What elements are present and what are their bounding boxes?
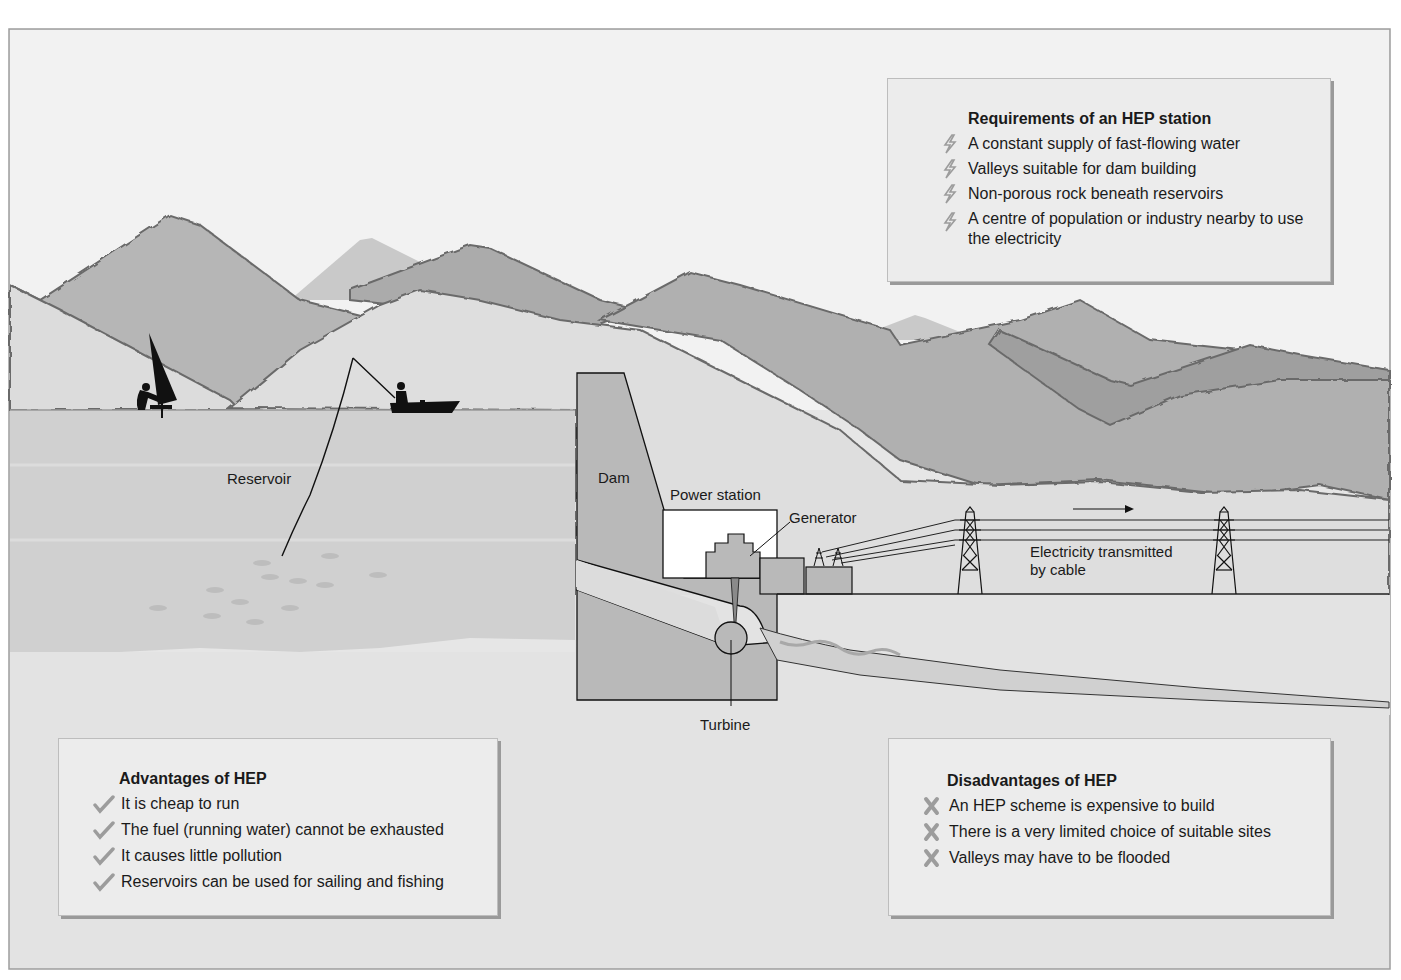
- switch-building: [806, 567, 852, 594]
- cross-icon: [921, 822, 943, 842]
- requirement-item: A centre of population or industry nearb…: [940, 209, 1308, 249]
- lightning-bolt-icon: [940, 212, 962, 232]
- checkmark-icon: [93, 846, 115, 866]
- disadvantages-panel: Disadvantages of HEP An HEP scheme is ex…: [888, 738, 1331, 916]
- cross-icon: [921, 848, 943, 868]
- checkmark-icon: [93, 794, 115, 814]
- label-power-station: Power station: [670, 486, 761, 504]
- lightning-bolt-icon: [940, 134, 962, 154]
- advantage-item: It causes little pollution: [93, 843, 497, 869]
- requirement-item: Non-porous rock beneath reservoirs: [940, 181, 1330, 206]
- lightning-bolt-icon: [940, 159, 962, 179]
- disadvantages-list: An HEP scheme is expensive to build Ther…: [921, 793, 1330, 871]
- checkmark-icon: [93, 872, 115, 892]
- lightning-bolt-icon: [940, 184, 962, 204]
- requirements-title: Requirements of an HEP station: [968, 109, 1330, 129]
- cross-icon: [921, 796, 943, 816]
- requirements-list: A constant supply of fast-flowing water …: [940, 131, 1330, 249]
- label-generator: Generator: [789, 509, 857, 527]
- disadvantage-item: An HEP scheme is expensive to build: [921, 793, 1330, 819]
- requirement-item: A constant supply of fast-flowing water: [940, 131, 1330, 156]
- transformer-building: [760, 558, 804, 594]
- advantages-panel: Advantages of HEP It is cheap to run The…: [58, 738, 498, 916]
- checkmark-icon: [93, 820, 115, 840]
- advantages-list: It is cheap to run The fuel (running wat…: [93, 791, 497, 895]
- requirement-item: Valleys suitable for dam building: [940, 156, 1330, 181]
- label-electricity-2: by cable: [1030, 561, 1086, 579]
- label-turbine: Turbine: [700, 716, 750, 734]
- disadvantage-item: Valleys may have to be flooded: [921, 845, 1330, 871]
- requirements-panel: Requirements of an HEP station A constan…: [887, 78, 1331, 282]
- label-electricity-1: Electricity transmitted: [1030, 543, 1173, 561]
- label-dam: Dam: [598, 469, 630, 487]
- advantages-title: Advantages of HEP: [119, 769, 497, 789]
- disadvantages-title: Disadvantages of HEP: [947, 771, 1330, 791]
- label-reservoir: Reservoir: [227, 470, 291, 488]
- disadvantage-item: There is a very limited choice of suitab…: [921, 819, 1330, 845]
- advantage-item: It is cheap to run: [93, 791, 497, 817]
- advantage-item: The fuel (running water) cannot be exhau…: [93, 817, 497, 843]
- advantage-item: Reservoirs can be used for sailing and f…: [93, 869, 497, 895]
